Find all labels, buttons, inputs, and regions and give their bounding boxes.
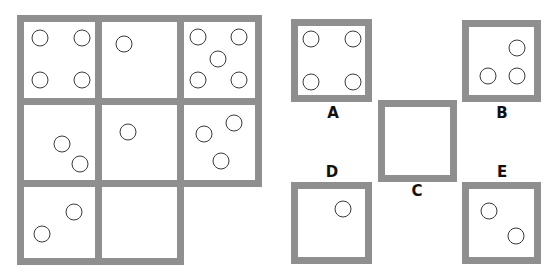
- circle-icon: [303, 31, 320, 48]
- circle-icon: [120, 124, 137, 141]
- option-label: B: [496, 106, 507, 121]
- grid-cell: [17, 180, 102, 265]
- circle-icon: [226, 115, 243, 132]
- option-d-box[interactable]: [291, 182, 372, 264]
- circle-icon: [481, 203, 498, 220]
- circle-icon: [116, 36, 133, 53]
- grid-cell: [95, 98, 184, 187]
- option-label: A: [327, 106, 339, 121]
- circle-icon: [66, 204, 83, 221]
- grid-cell: [95, 15, 184, 105]
- circle-icon: [345, 31, 362, 48]
- circle-icon: [335, 201, 352, 218]
- circle-icon: [509, 40, 526, 57]
- circle-icon: [231, 29, 248, 46]
- missing-cell: [95, 180, 184, 265]
- circle-icon: [74, 72, 91, 89]
- circle-icon: [210, 51, 227, 68]
- circle-icon: [231, 72, 248, 89]
- circle-icon: [196, 126, 213, 143]
- circle-icon: [32, 30, 49, 47]
- circle-icon: [213, 153, 230, 170]
- option-label: C: [411, 184, 422, 199]
- circle-icon: [190, 29, 207, 46]
- option-a-box[interactable]: [291, 19, 372, 102]
- grid-cell: [177, 98, 262, 187]
- circle-icon: [303, 74, 320, 91]
- circle-icon: [190, 72, 207, 89]
- option-e-box[interactable]: [462, 182, 541, 264]
- circle-icon: [34, 226, 51, 243]
- option-c-box[interactable]: [378, 100, 457, 182]
- circle-icon: [480, 68, 497, 85]
- circle-icon: [345, 74, 362, 91]
- option-label: D: [326, 165, 338, 180]
- circle-icon: [54, 136, 71, 153]
- grid-cell: [17, 15, 102, 105]
- circle-icon: [508, 228, 525, 245]
- circle-icon: [74, 30, 91, 47]
- circle-icon: [32, 72, 49, 89]
- option-label: E: [497, 165, 507, 180]
- circle-icon: [72, 156, 89, 173]
- option-b-box[interactable]: [462, 20, 541, 102]
- circle-icon: [509, 68, 526, 85]
